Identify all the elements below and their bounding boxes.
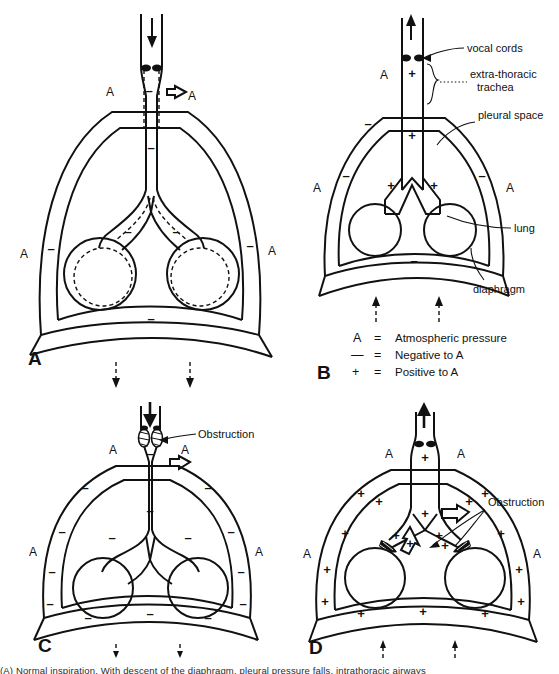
pressure-mark: – <box>184 530 191 545</box>
extrathoracic-obstruction <box>139 425 163 447</box>
atmosphere-label: A <box>109 443 117 457</box>
panel-c: Obstruction – – – – – – – <box>0 390 279 658</box>
pressure-mark: + <box>465 494 473 509</box>
legend: A = Atmospheric pressure — = Negative to… <box>351 331 507 379</box>
pressure-mark: + <box>481 606 489 621</box>
atmosphere-label: A <box>29 545 37 559</box>
legend-meaning: Atmospheric pressure <box>395 332 507 344</box>
pressure-mark: + <box>419 604 427 619</box>
legend-symbol: A <box>353 331 362 345</box>
pressure-mark: + <box>357 486 365 501</box>
callout-obstruction: Obstruction <box>488 496 544 508</box>
pressure-mark: + <box>375 494 383 509</box>
legend-meaning: Positive to A <box>395 366 459 378</box>
pressure-mark: – <box>124 224 131 239</box>
atmosphere-label: A <box>385 447 393 461</box>
pressure-mark: + <box>408 128 416 143</box>
chest-wall-inner <box>335 484 512 610</box>
pressure-mark: – <box>147 311 154 326</box>
legend-equals: = <box>374 331 381 345</box>
legend-symbol: + <box>352 365 359 379</box>
pressure-mark: – <box>81 480 88 495</box>
atmosphere-label: A <box>181 443 189 457</box>
callout-vocal-cords: vocal cords <box>467 42 523 54</box>
panel-a: – – – – – – – A A A A A <box>0 0 279 390</box>
diaphragm-motion-arrows <box>372 296 443 322</box>
extra-thoracic-brace <box>427 64 438 104</box>
pressure-mark: – <box>146 606 153 621</box>
pressure-mark: + <box>421 450 429 465</box>
pressure-mark: – <box>342 168 349 183</box>
pressure-mark: – <box>172 224 179 239</box>
expiration-flow-arrow <box>406 14 416 40</box>
diaphragm-motion-arrows <box>113 644 183 658</box>
pressure-mark: + <box>321 594 329 609</box>
vocal-cords <box>141 65 162 72</box>
pressure-mark: + <box>497 526 505 541</box>
pressure-mark: + <box>515 562 523 577</box>
legend-equals: = <box>374 365 381 379</box>
pressure-mark: – <box>478 168 485 183</box>
pressure-mark: – <box>364 116 371 131</box>
pressure-mark: – <box>58 524 65 539</box>
pressure-mark: – <box>48 564 55 579</box>
panel-letter-c: C <box>38 635 52 656</box>
costal-left <box>319 276 325 296</box>
diaphragm-motion-arrows <box>380 640 458 658</box>
pressure-mark: + <box>341 526 349 541</box>
pressure-marks: + + + + + + + + + + + + + + + + + + + <box>321 450 525 621</box>
diaphragm-dome <box>30 338 272 357</box>
callout-extra-thoracic-trachea-line2: trachea <box>477 81 515 93</box>
atmosphere-label: A <box>20 247 28 261</box>
diaphragm-motion-arrows <box>112 362 194 388</box>
atmosphere-label: A <box>380 68 388 82</box>
trachea <box>402 18 423 190</box>
legend-equals: = <box>374 348 381 362</box>
inspiration-flow-arrow <box>147 18 157 48</box>
callout-diaphragm: diaphragm <box>473 283 525 295</box>
atmosphere-label: A <box>533 547 541 561</box>
pressure-mark: – <box>204 480 211 495</box>
callout-pleural-space: pleural space <box>478 109 543 121</box>
vocal-cords <box>414 441 436 447</box>
panel-d: Obstruction + + + + + + + + + + + + + + … <box>279 390 559 658</box>
atmosphere-label: A <box>268 244 276 258</box>
pressure-mark: + <box>406 536 414 551</box>
figure-root: – – – – – – – A A A A A <box>0 0 559 674</box>
chest-wall-inner <box>57 128 243 320</box>
atmosphere-label: A <box>457 447 465 461</box>
pressure-mark: – <box>239 596 246 611</box>
pressure-mark: – <box>410 253 417 268</box>
panel-b: vocal cords extra-thoracic trachea pleur… <box>279 0 559 390</box>
diaphragm-dome <box>34 622 258 640</box>
diaphragm-dome <box>309 624 537 642</box>
pressure-mark: + <box>421 506 429 521</box>
pressure-mark: – <box>146 446 153 461</box>
callout-lung: lung <box>514 222 535 234</box>
extrathoracic-collapse-arrow <box>167 86 186 98</box>
vocal-cords <box>401 55 424 62</box>
pressure-marks: + + + + – – – – <box>342 66 485 268</box>
pressure-mark: – <box>84 610 91 625</box>
atmosphere-label: A <box>313 181 321 195</box>
pressure-mark: + <box>387 178 395 193</box>
pressure-mark: – <box>146 503 153 518</box>
pressure-mark: + <box>441 538 449 553</box>
panel-letter-d: D <box>309 637 323 658</box>
pressure-mark: + <box>408 66 416 81</box>
pressure-mark: – <box>204 610 211 625</box>
atmosphere-label: A <box>188 89 196 103</box>
chest-wall-inner <box>339 131 490 266</box>
callout-extra-thoracic-trachea-line1: extra-thoracic <box>470 68 537 80</box>
inspiration-flow-arrow <box>143 402 157 428</box>
pressure-mark: – <box>246 238 253 253</box>
atmosphere-label: A <box>106 85 114 99</box>
pressure-mark: – <box>46 596 53 611</box>
pressure-mark: – <box>147 140 154 155</box>
callout-obstruction: Obstruction <box>198 428 254 440</box>
pressure-mark: – <box>145 83 152 98</box>
callout-leaders <box>159 434 196 444</box>
alveoli <box>64 238 239 310</box>
pressure-mark: + <box>392 528 400 543</box>
atmosphere-label: A <box>506 181 514 195</box>
